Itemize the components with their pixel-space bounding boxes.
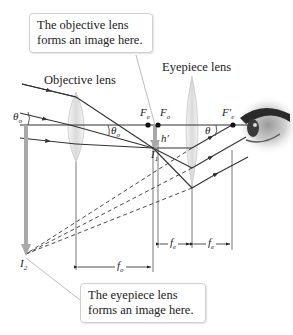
theta-o-incident-label: θo	[13, 110, 22, 125]
focal-point-fe-prime-label: F′e	[222, 106, 234, 121]
eyepiece-lens	[186, 76, 198, 185]
telescope-diagram: The objective lens forms an image here. …	[0, 0, 293, 335]
image-i1-label: I1	[151, 148, 158, 163]
callout-objective-image: The objective lens forms an image here.	[29, 13, 153, 53]
objective-lens-label: Objective lens	[44, 73, 116, 88]
callout-objective-text: The objective lens forms an image here.	[37, 18, 143, 47]
theta-o-angle-label: θo	[111, 124, 120, 139]
focal-point-fe-label: Fe	[140, 106, 150, 121]
image-height-h-prime-label: h′	[161, 132, 169, 144]
focal-length-fe-label-2: fe	[206, 236, 216, 251]
eyepiece-lens-label: Eyepiece lens	[162, 60, 231, 75]
theta-angle-label: θ	[205, 124, 210, 136]
callout-eyepiece-text: The eyepiece lens forms an image here.	[88, 288, 194, 317]
focal-length-fe-label-1: fe	[168, 236, 178, 251]
callout-eyepiece-image: The eyepiece lens forms an image here.	[80, 283, 206, 323]
focal-point-fo-label: Fo	[160, 106, 170, 121]
focal-length-fo-label: fo	[115, 259, 126, 274]
image-i2-label: I2	[20, 257, 27, 272]
